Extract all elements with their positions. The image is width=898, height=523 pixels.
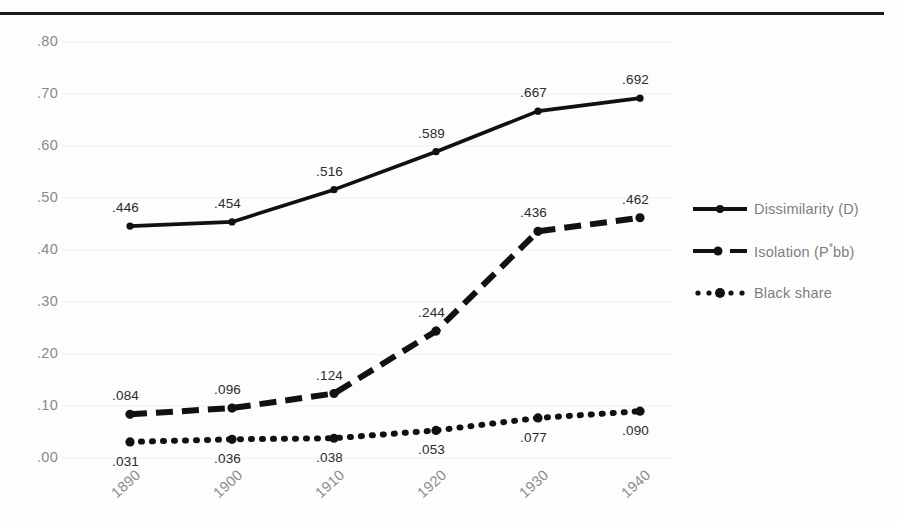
data-point-label: .096 (214, 382, 241, 397)
legend-item-dissimilarity[interactable]: Dissimilarity (D) (692, 188, 898, 230)
data-point-label: .589 (418, 126, 445, 141)
legend-label-dissimilarity: Dissimilarity (D) (754, 201, 859, 217)
data-point-label: .124 (316, 368, 343, 383)
data-point-label: .667 (520, 85, 547, 100)
chart-figure: .80.70.60.50.40.30.20.10.00 189019001910… (0, 0, 898, 523)
data-point-label: .516 (316, 164, 343, 179)
y-axis-tick-label: .50 (18, 189, 58, 205)
y-axis-tick-label: .10 (18, 397, 58, 413)
y-axis-tick-label: .80 (18, 33, 58, 49)
legend-key-dashed-line-icon (692, 244, 748, 258)
legend-label-black-share: Black share (754, 285, 832, 301)
data-point-label: .462 (622, 192, 649, 207)
data-point-label: .244 (418, 305, 445, 320)
legend-label-isolation: Isolation (P*bb) (754, 242, 855, 260)
y-axis-tick-label: .00 (18, 449, 58, 465)
legend-key-solid-line-icon (692, 202, 748, 216)
data-point-label: .036 (214, 451, 241, 466)
chart-legend: Dissimilarity (D) Isolation (P*bb) Black… (692, 188, 898, 314)
y-axis-tick-label: .20 (18, 345, 58, 361)
y-axis-tick-label: .40 (18, 241, 58, 257)
data-point-label: .436 (520, 205, 547, 220)
series-lines (125, 95, 644, 447)
legend-item-isolation[interactable]: Isolation (P*bb) (692, 230, 898, 272)
data-point-label: .031 (112, 454, 139, 469)
y-axis-tick-label: .70 (18, 85, 58, 101)
data-point-label: .053 (418, 442, 445, 457)
legend-key-dotted-line-icon (692, 286, 748, 300)
data-point-label: .446 (112, 200, 139, 215)
data-point-label: .038 (316, 450, 343, 465)
legend-item-black-share[interactable]: Black share (692, 272, 898, 314)
data-point-label: .077 (520, 430, 547, 445)
y-axis-tick-label: .30 (18, 293, 58, 309)
data-point-label: .084 (112, 388, 139, 403)
data-point-label: .090 (622, 423, 649, 438)
data-point-label: .454 (214, 196, 241, 211)
data-point-label: .692 (622, 72, 649, 87)
y-axis-tick-label: .60 (18, 137, 58, 153)
